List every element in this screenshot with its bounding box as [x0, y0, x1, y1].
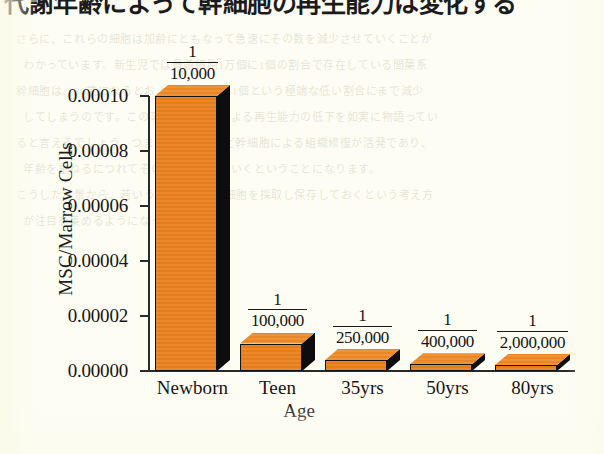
- y-axis-tick-label: 0.00008: [18, 140, 128, 162]
- bar-front-face: [410, 364, 472, 371]
- fraction-rule: [167, 62, 218, 63]
- fraction: 1250,000: [333, 307, 392, 347]
- bar-value-label: 110,000: [133, 43, 253, 83]
- fraction-rule: [418, 330, 477, 331]
- page-headline: 代謝年齢によって幹細胞の再生能力は変化する: [4, 0, 517, 15]
- bar-chart: MSC/Marrow Cells 0.000100.000080.000060.…: [0, 15, 604, 454]
- fraction-numerator: 1: [333, 307, 392, 326]
- bar: [495, 354, 570, 371]
- bar: [410, 353, 485, 371]
- fraction-rule: [248, 309, 307, 310]
- bar: [325, 349, 400, 371]
- y-axis-tick-labels: 0.000100.000080.000060.000040.000020.000…: [18, 15, 128, 454]
- bar-top-face: [495, 354, 570, 365]
- bar-front-face: [155, 96, 217, 371]
- bar-front-face: [325, 360, 387, 371]
- x-axis-tick-label: 80yrs: [511, 377, 554, 399]
- bar-value-label: 12,000,000: [473, 312, 593, 352]
- bar-top-face: [410, 353, 485, 364]
- fraction-denominator: 400,000: [418, 332, 477, 351]
- x-axis-tick-label: Newborn: [157, 377, 228, 399]
- fraction: 110,000: [167, 43, 218, 83]
- y-axis-tick-label: 0.00006: [18, 195, 128, 217]
- fraction-numerator: 1: [248, 291, 307, 310]
- page-headline-strip: 代謝年齢によって幹細胞の再生能力は変化する: [0, 0, 604, 15]
- y-axis-tick-label: 0.00002: [18, 305, 128, 327]
- x-axis-title: Age: [283, 400, 315, 422]
- fraction-denominator: 10,000: [167, 64, 218, 83]
- fraction-rule: [497, 331, 568, 332]
- fraction-denominator: 100,000: [248, 311, 307, 330]
- fraction: 12,000,000: [497, 312, 568, 352]
- fraction: 1400,000: [418, 311, 477, 351]
- bar-top-face: [155, 85, 230, 96]
- y-axis-tick-label: 0.00010: [18, 85, 128, 107]
- fraction-denominator: 2,000,000: [497, 333, 568, 352]
- y-axis-tick-label: 0.00000: [18, 360, 128, 382]
- x-axis-tick-label: 35yrs: [341, 377, 384, 399]
- bar-front-face: [240, 344, 302, 372]
- fraction-numerator: 1: [418, 311, 477, 330]
- scanned-page: 代謝年齢によって幹細胞の再生能力は変化する さらに、これらの細胞は加齢にともなっ…: [0, 0, 604, 454]
- bar-front-face: [495, 365, 557, 371]
- y-axis-tick-label: 0.00004: [18, 250, 128, 272]
- fraction-denominator: 250,000: [333, 328, 392, 347]
- fraction-numerator: 1: [497, 312, 568, 331]
- fraction-rule: [333, 326, 392, 327]
- x-axis-tick-label: 50yrs: [426, 377, 469, 399]
- x-axis-tick-label: Teen: [259, 377, 296, 399]
- fraction: 1100,000: [248, 291, 307, 331]
- fraction-numerator: 1: [167, 43, 218, 62]
